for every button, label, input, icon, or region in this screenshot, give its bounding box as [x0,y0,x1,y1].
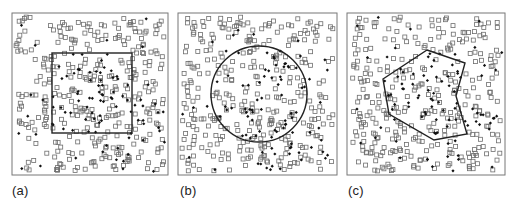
filled-marker [447,142,450,145]
hollow-square-marker [369,72,373,76]
hollow-square-marker [487,83,491,87]
hollow-square-marker [365,37,369,41]
hollow-square-marker [479,52,483,56]
filled-marker [399,156,402,159]
filled-marker [435,118,438,121]
hollow-square-marker [471,159,475,163]
hollow-square-marker [496,133,500,137]
hollow-square-marker [405,150,409,154]
hollow-square-marker [451,73,455,77]
hollow-square-marker [392,17,396,21]
filled-marker [430,65,433,68]
filled-marker [400,82,403,85]
filled-marker [489,121,492,124]
hollow-square-marker [475,22,479,26]
hollow-square-marker [430,18,434,22]
hollow-square-marker [403,35,407,39]
hollow-square-marker [354,52,358,56]
hollow-square-marker [416,42,420,46]
hollow-square-marker [475,17,479,21]
markers [351,15,504,173]
hollow-square-marker [491,148,495,152]
hollow-square-marker [495,71,499,75]
hollow-square-marker [449,110,453,114]
filled-marker [479,113,482,116]
hollow-square-marker [430,144,434,148]
hollow-square-marker [377,94,381,98]
filled-marker [409,27,412,30]
hollow-square-marker [476,95,480,99]
hollow-square-marker [375,153,379,157]
hollow-square-marker [374,159,378,163]
hollow-square-marker [435,88,439,92]
hollow-square-marker [412,88,416,92]
hollow-square-marker [491,168,495,172]
hollow-square-marker [357,95,361,99]
hollow-square-marker [451,24,455,28]
hollow-square-marker [362,139,366,143]
hollow-square-marker [386,162,390,166]
hollow-square-marker [495,158,499,162]
hollow-square-marker [442,31,446,35]
hollow-square-marker [375,59,379,63]
filled-marker [431,165,434,168]
hollow-square-marker [495,21,499,25]
hollow-square-marker [402,156,406,160]
hollow-square-marker [405,95,409,99]
hollow-square-marker [467,30,471,34]
hollow-square-marker [432,121,436,125]
filled-marker [428,52,431,55]
hollow-square-marker [353,43,357,47]
hollow-square-marker [475,132,479,136]
hollow-square-marker [495,99,499,103]
hollow-square-marker [391,57,395,61]
hollow-square-marker [496,139,500,143]
filled-marker [379,126,382,129]
hollow-square-marker [355,134,359,138]
hollow-square-marker [356,160,360,164]
hollow-square-marker [477,76,481,80]
hollow-square-marker [430,24,434,28]
hollow-square-marker [356,48,360,52]
filled-marker [473,46,476,49]
hollow-square-marker [454,80,458,84]
panel-label-c: (c) [348,183,364,198]
hollow-square-marker [363,71,367,75]
hollow-square-marker [475,162,479,166]
filled-marker [422,74,425,77]
hollow-square-marker [471,78,475,82]
hollow-square-marker [468,52,472,56]
hollow-square-marker [427,93,431,97]
hollow-square-marker [369,46,373,50]
hollow-square-marker [370,146,374,150]
hollow-square-marker [437,18,441,22]
hollow-square-marker [436,142,440,146]
hollow-square-marker [409,154,413,158]
hollow-square-marker [400,57,404,61]
hollow-square-marker [352,110,356,114]
hollow-square-marker [378,68,382,72]
hollow-square-marker [496,53,500,57]
hollow-square-marker [358,33,362,37]
hollow-square-marker [382,146,386,150]
hollow-square-marker [357,118,361,122]
hollow-square-marker [480,58,484,62]
hollow-square-marker [405,142,409,146]
hollow-square-marker [461,159,465,163]
hollow-square-marker [486,21,490,25]
hollow-square-marker [402,76,406,80]
hollow-square-marker [451,32,455,36]
hollow-square-marker [371,116,375,120]
hollow-square-marker [364,18,368,22]
filled-marker [451,169,454,172]
hollow-square-marker [498,151,502,155]
hollow-square-marker [377,100,381,104]
hollow-square-marker [391,38,395,42]
filled-marker [500,51,503,54]
hollow-square-marker [383,37,387,41]
filled-marker [453,53,456,56]
hollow-square-marker [417,25,421,29]
hollow-square-marker [471,86,475,90]
hollow-square-marker [468,156,472,160]
hollow-square-marker [370,101,374,105]
